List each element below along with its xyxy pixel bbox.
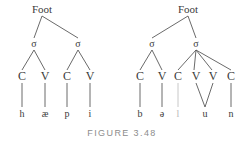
tree-edge-sigma-1-to-slot-2 bbox=[178, 50, 196, 70]
left-tree-segment-1: æ bbox=[42, 109, 49, 119]
right-tree-skeletal-slot-3: V bbox=[192, 70, 201, 82]
right-tree-skeletal-slot-4: V bbox=[209, 70, 218, 82]
tree-edge-sigma-1-to-slot-5 bbox=[196, 50, 231, 70]
tree-edge-sigma-0-to-slot-0 bbox=[140, 50, 152, 70]
tree-edge-foot-to-sigma-0 bbox=[152, 16, 188, 38]
tree-edge-sigma-1-to-slot-2 bbox=[67, 50, 78, 70]
left-tree-skeletal-slot-2: C bbox=[63, 70, 71, 82]
left-tree-skeletal-slot-1: V bbox=[41, 70, 50, 82]
tree-edge-slot-3-to-seg-3 bbox=[196, 83, 205, 107]
right-tree-skeletal-slot-2: C bbox=[174, 70, 182, 82]
right-tree-segment-4: n bbox=[229, 109, 234, 119]
left-tree-segment-2: p bbox=[65, 109, 70, 119]
left-tree-skeletal-slot-0: C bbox=[18, 70, 26, 82]
left-tree-skeletal-slot-3: V bbox=[86, 70, 95, 82]
tree-edge-sigma-1-to-slot-4 bbox=[196, 50, 212, 70]
right-tree-skeletal-slot-5: C bbox=[227, 70, 235, 82]
tree-edge-foot-to-sigma-1 bbox=[42, 16, 78, 38]
left-tree-foot-label: Foot bbox=[32, 4, 52, 15]
left-tree-syllable-node-0: σ bbox=[31, 39, 36, 49]
right-tree-segment-3: u bbox=[203, 109, 208, 119]
right-tree-syllable-node-0: σ bbox=[149, 39, 154, 49]
right-tree-skeletal-slot-1: V bbox=[158, 70, 167, 82]
left-tree-segment-0: h bbox=[20, 109, 25, 119]
right-tree-segment-1: ə bbox=[160, 109, 164, 119]
right-tree-skeletal-slot-0: C bbox=[136, 70, 144, 82]
right-tree-foot-label: Foot bbox=[178, 4, 198, 15]
right-tree-segment-2: l bbox=[177, 109, 180, 119]
tree-edge-sigma-0-to-slot-1 bbox=[152, 50, 162, 70]
tree-edges-layer bbox=[0, 0, 244, 147]
tree-edge-sigma-1-to-slot-3 bbox=[194, 50, 196, 70]
left-tree-segment-3: i bbox=[89, 109, 92, 119]
tree-edge-foot-to-sigma-0 bbox=[34, 16, 42, 38]
figure-canvas: FootσσCVCVhæpiFootσσCVCVVCbəlun FIGURE 3… bbox=[0, 0, 244, 147]
tree-edge-foot-to-sigma-1 bbox=[188, 16, 196, 38]
left-tree-syllable-node-1: σ bbox=[75, 39, 80, 49]
right-tree-syllable-node-1: σ bbox=[193, 39, 198, 49]
tree-edge-sigma-0-to-slot-1 bbox=[34, 50, 45, 70]
tree-edge-sigma-0-to-slot-0 bbox=[22, 50, 34, 70]
right-tree-segment-0: b bbox=[138, 109, 143, 119]
tree-edge-slot-4-to-seg-3 bbox=[205, 83, 213, 107]
figure-caption: FIGURE 3.48 bbox=[0, 128, 244, 138]
tree-edge-sigma-1-to-slot-3 bbox=[78, 50, 90, 70]
